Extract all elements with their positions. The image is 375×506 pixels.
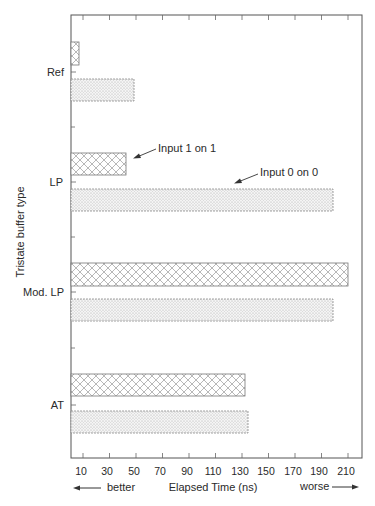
annotation-input1-arrow-icon — [133, 149, 156, 159]
category-label-ref: Ref — [47, 66, 65, 78]
annotation-input0-label: Input 0 on 0 — [260, 166, 318, 178]
x-tick-label: 170 — [284, 465, 302, 477]
bar-modlp-input0 — [71, 299, 333, 321]
x-tick-label: 30 — [101, 465, 113, 477]
x-tick-label: 110 — [205, 465, 222, 477]
annotation-input1-label: Input 1 on 1 — [158, 142, 216, 154]
bar-chart: Ref LP Mod. LP AT Tristate buffer type 1… — [0, 0, 375, 506]
bar-at-input1 — [71, 374, 245, 396]
x-tick-label: 190 — [310, 465, 328, 477]
x-axis-title: Elapsed Time (ns) — [169, 481, 258, 493]
x-tick-label: 70 — [154, 465, 166, 477]
x-tick-label: 90 — [181, 465, 193, 477]
x-tick-label: 210 — [337, 465, 355, 477]
better-label: better — [107, 481, 135, 493]
category-label-modlp: Mod. LP — [23, 286, 64, 298]
bar-ref-input1 — [71, 42, 79, 65]
y-axis-ticks — [71, 72, 76, 405]
worse-label: worse — [299, 480, 329, 492]
bar-ref-input0 — [71, 79, 134, 101]
x-tick-label: 150 — [257, 465, 275, 477]
x-tick-labels: 10 30 50 70 90 110 130 150 170 190 210 — [75, 465, 355, 477]
bar-lp-input0 — [71, 189, 333, 211]
better-arrow-icon — [73, 486, 101, 491]
category-label-at: AT — [51, 399, 65, 411]
x-tick-label: 130 — [231, 465, 249, 477]
top-ticks — [83, 15, 348, 20]
x-tick-label: 10 — [75, 465, 87, 477]
bar-modlp-input1 — [71, 263, 348, 286]
worse-arrow-icon — [332, 485, 359, 490]
bar-at-input0 — [71, 411, 248, 433]
annotation-input0-arrow-icon — [234, 174, 258, 184]
bar-lp-input1 — [71, 153, 126, 175]
category-label-lp: LP — [50, 176, 63, 188]
x-axis-ticks — [83, 453, 348, 458]
x-tick-label: 50 — [128, 465, 140, 477]
y-axis-title: Tristate buffer type — [14, 186, 26, 277]
